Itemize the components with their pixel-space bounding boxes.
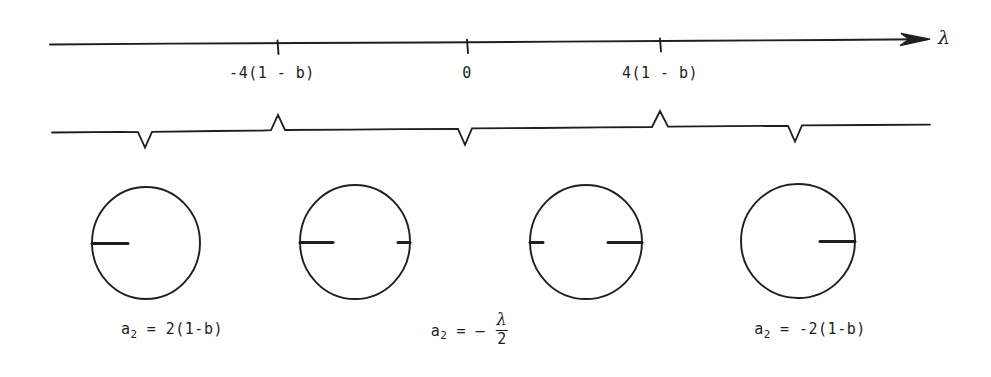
circle-3-caption-numerator: λ	[495, 312, 510, 330]
circle-3-caption-fraction: λ 2	[495, 312, 510, 348]
circle-1-caption-equals: =	[147, 320, 157, 338]
circle-4-caption-equals: =	[780, 320, 790, 338]
circle-4-caption-var: a	[754, 320, 764, 338]
lambda-interval-figure: -4(1 - b) 0 4(1 - b) λ a2 = 2(1-b) a2 = …	[0, 0, 991, 377]
circle-1-caption-var: a	[121, 320, 131, 338]
axis-line	[50, 39, 922, 44]
circle-1-caption-subscript: 2	[131, 328, 138, 341]
brace-line	[52, 111, 930, 148]
circle-3-caption-var: a	[431, 322, 441, 340]
axis-tick-label-neg4: -4(1 - b)	[229, 64, 315, 82]
axis-tick-zero	[467, 40, 468, 53]
circle-3-caption-equals: =	[456, 322, 466, 340]
circle-3-caption: a2 = – λ 2	[431, 312, 509, 348]
axis-tick-label-zero: 0	[462, 64, 472, 82]
circle-4-caption-value: -2(1-b)	[799, 320, 866, 338]
axis-tick-pos4	[660, 39, 661, 52]
axis-variable-lambda: λ	[938, 26, 950, 48]
circle-4-caption-subscript: 2	[764, 328, 771, 341]
circle-4-caption: a2 = -2(1-b)	[754, 320, 865, 341]
axis-tick-neg4	[278, 41, 279, 55]
circle-3-caption-minus: –	[476, 322, 486, 340]
axis-tick-label-pos4: 4(1 - b)	[622, 64, 698, 82]
circle-3-caption-subscript: 2	[440, 329, 447, 342]
circle-1-caption-value: 2(1-b)	[166, 320, 223, 338]
circle-3-caption-denominator: 2	[495, 331, 510, 348]
circle-1-caption: a2 = 2(1-b)	[121, 320, 223, 341]
